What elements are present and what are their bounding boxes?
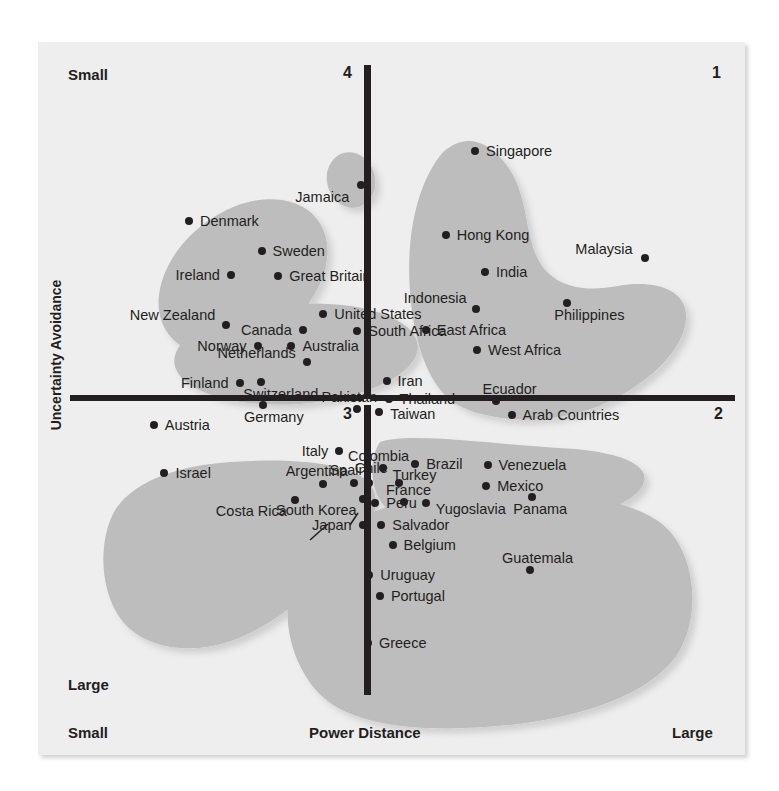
data-point-label: Greece [379, 635, 427, 650]
chart-panel: 4 1 3 2 JamaicaDenmarkSwedenIrelandGreat… [38, 42, 745, 755]
quadrant-label-3: 3 [343, 405, 352, 423]
y-axis-title: Uncertainty Avoidance [48, 255, 64, 455]
data-point [236, 379, 244, 387]
data-point [526, 566, 534, 574]
vertical-axis-upper [364, 65, 371, 399]
data-point-label: Chile [355, 461, 388, 476]
plot-area: 4 1 3 2 JamaicaDenmarkSwedenIrelandGreat… [38, 42, 745, 755]
x-axis-title: Power Distance [309, 724, 421, 741]
quadrant-label-1: 1 [712, 64, 721, 82]
data-point-label: Austria [165, 417, 210, 432]
data-point-label: Uruguay [380, 568, 435, 583]
y-axis-large-label: Large [68, 676, 109, 693]
data-point-label: India [496, 265, 527, 280]
data-point-label: Netherlands [218, 346, 296, 361]
data-point-label: Taiwan [390, 406, 435, 421]
data-point-label: New Zealand [130, 308, 215, 323]
data-point [227, 271, 235, 279]
data-point-label: Portugal [391, 589, 445, 604]
data-point-label: Thailand [400, 392, 456, 407]
data-point [471, 147, 479, 155]
data-point-label: Hong Kong [457, 228, 530, 243]
data-point-label: South Africa [368, 324, 446, 339]
data-point-label: Salvador [392, 518, 449, 533]
data-point-label: South Korea [276, 503, 357, 518]
data-point [359, 495, 367, 503]
data-point-label: Yugoslavia [436, 502, 506, 517]
data-point [376, 592, 384, 600]
data-point [442, 231, 450, 239]
data-point-label: France [386, 482, 431, 497]
data-point [383, 377, 391, 385]
data-point-label: West Africa [488, 343, 561, 358]
data-point [641, 254, 649, 262]
data-point-label: Ecuador [483, 382, 537, 397]
x-axis-large-label: Large [672, 724, 713, 741]
data-point [258, 247, 266, 255]
data-point-label: Israel [175, 465, 210, 480]
data-point-label: Arab Countries [523, 407, 620, 422]
data-point-label: Germany [244, 410, 304, 425]
y-axis-small-label: Small [68, 66, 108, 83]
data-point-label: Philippines [554, 308, 624, 323]
data-point-label: Finland [181, 375, 229, 390]
data-point-label: Singapore [486, 143, 552, 158]
data-point-label: Switzerland [243, 387, 318, 402]
chart-screenshot: 4 1 3 2 JamaicaDenmarkSwedenIrelandGreat… [0, 0, 779, 791]
data-point-label: Australia [302, 339, 358, 354]
data-point [150, 421, 158, 429]
data-point [364, 639, 372, 647]
data-point [375, 408, 383, 416]
data-point-label: Guatemala [502, 550, 573, 565]
data-point-label: Pakistan [321, 390, 377, 405]
data-point-label: Italy [302, 444, 329, 459]
data-point [389, 541, 397, 549]
data-point [492, 397, 500, 405]
data-point-label: Sweden [273, 244, 325, 259]
data-point-label: Ireland [176, 268, 220, 283]
data-point-label: Jamaica [295, 189, 349, 204]
data-point [357, 181, 365, 189]
data-point [291, 496, 299, 504]
data-point [319, 480, 327, 488]
data-point-label: United States [334, 307, 421, 322]
data-point [359, 521, 367, 529]
data-point-label: Indonesia [404, 291, 467, 306]
data-point [385, 395, 393, 403]
data-point-label: Iran [398, 373, 423, 388]
data-point-label: Venezuela [499, 458, 567, 473]
data-point-label: Panama [513, 502, 567, 517]
data-point-label: Mexico [497, 479, 543, 494]
horizontal-axis-left [70, 395, 364, 401]
data-point [473, 346, 481, 354]
data-point-label: Costa Rica [216, 503, 287, 518]
data-point-label: Canada [241, 322, 292, 337]
x-axis-small-label: Small [68, 724, 108, 741]
data-point-label: East Africa [437, 323, 506, 338]
data-point [484, 461, 492, 469]
data-point [508, 411, 516, 419]
quadrant-label-2: 2 [714, 405, 723, 423]
data-point-label: Japan [312, 518, 352, 533]
data-point-label: Great Britain [289, 269, 370, 284]
data-point-label: Belgium [404, 538, 456, 553]
data-point-label: Turkey [393, 467, 437, 482]
data-point-label: Malaysia [575, 242, 632, 257]
blob-asia [409, 141, 686, 420]
data-point-label: Denmark [200, 214, 259, 229]
data-point [299, 326, 307, 334]
quadrant-label-4: 4 [343, 64, 352, 82]
data-point [422, 326, 430, 334]
